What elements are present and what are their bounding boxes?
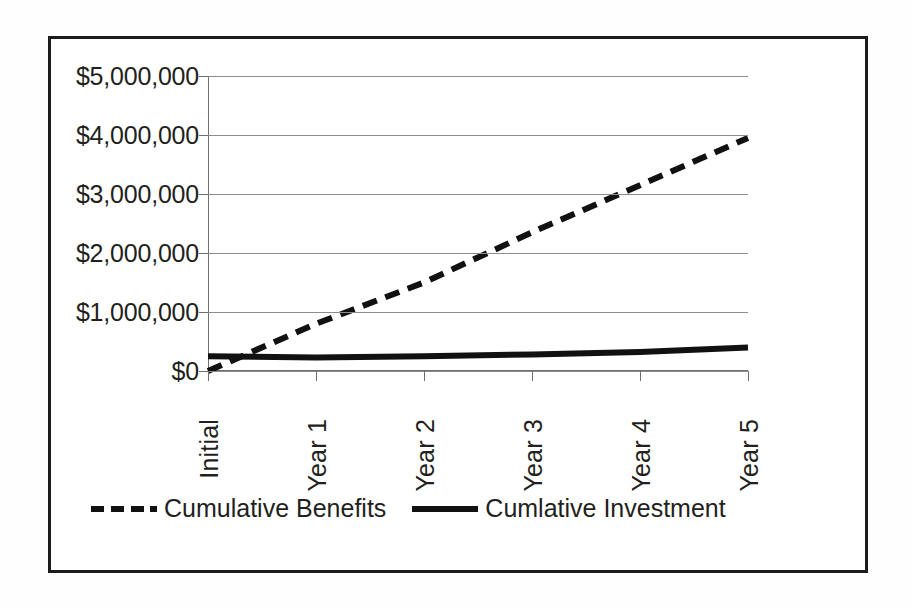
- x-tick-label: Initial: [195, 419, 224, 479]
- legend-entry-cumlative-investment: Cumlative Investment: [412, 494, 725, 523]
- x-tick-mark: [316, 371, 317, 381]
- gridline: [208, 253, 748, 254]
- gridline: [208, 194, 748, 195]
- y-axis-labels: $0$1,000,000$2,000,000$3,000,000$4,000,0…: [51, 39, 199, 570]
- y-tick-mark: [199, 312, 208, 313]
- y-tick-label: $1,000,000: [76, 298, 199, 327]
- solid-line-swatch-icon: [412, 506, 478, 512]
- gridline: [208, 76, 748, 77]
- y-tick-mark: [199, 371, 208, 372]
- y-tick-label: $2,000,000: [76, 239, 199, 268]
- x-tick-mark: [748, 371, 749, 381]
- y-tick-label: $0: [172, 357, 199, 386]
- legend-entry-cumulative-benefits: Cumulative Benefits: [91, 494, 386, 523]
- y-tick-mark: [199, 253, 208, 254]
- legend-label-cumulative-benefits: Cumulative Benefits: [164, 494, 386, 523]
- series-line-2: [208, 347, 748, 357]
- y-tick-label: $4,000,000: [76, 121, 199, 150]
- x-tick-label: Year 4: [627, 419, 656, 492]
- y-tick-mark: [199, 76, 208, 77]
- y-tick-label: $3,000,000: [76, 180, 199, 209]
- series-line-1: [208, 138, 748, 371]
- y-tick-label: $5,000,000: [76, 62, 199, 91]
- x-tick-mark: [208, 371, 209, 381]
- x-tick-mark: [640, 371, 641, 381]
- y-tick-mark: [199, 194, 208, 195]
- series-layer: [208, 76, 748, 371]
- x-tick-mark: [424, 371, 425, 381]
- gridline: [208, 371, 748, 372]
- dashed-line-swatch-icon: [91, 506, 157, 512]
- gridline: [208, 312, 748, 313]
- x-tick-label: Year 2: [411, 419, 440, 492]
- chart-frame: $0$1,000,000$2,000,000$3,000,000$4,000,0…: [48, 36, 868, 573]
- y-tick-mark: [199, 135, 208, 136]
- legend-label-cumlative-investment: Cumlative Investment: [485, 494, 725, 523]
- x-tick-label: Year 5: [735, 419, 764, 492]
- x-tick-label: Year 1: [303, 419, 332, 492]
- x-tick-label: Year 3: [519, 419, 548, 492]
- gridline: [208, 135, 748, 136]
- chart-legend: Cumulative Benefits Cumlative Investment: [91, 494, 726, 523]
- plot-area: [208, 76, 748, 371]
- x-tick-mark: [532, 371, 533, 381]
